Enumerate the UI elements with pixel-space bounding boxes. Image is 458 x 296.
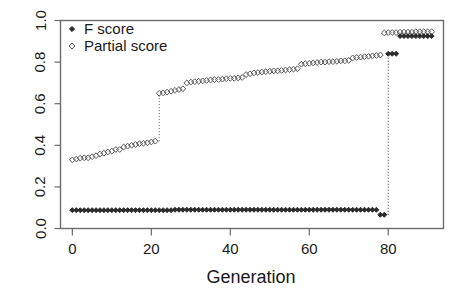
legend-marker — [69, 26, 74, 31]
data-point — [394, 51, 399, 56]
legend-item-partial-score[interactable]: Partial score — [69, 37, 167, 54]
y-tick-label: 0.6 — [32, 93, 49, 114]
x-axis-title: Generation — [206, 267, 295, 287]
x-tick-label: 20 — [143, 240, 160, 257]
y-tick-label: 0.4 — [32, 135, 49, 156]
scatter-plot: 0.00.20.40.60.81.0 020406080 F score Par… — [0, 0, 458, 296]
open-diamond-marker — [69, 43, 75, 49]
data-point — [382, 212, 387, 217]
legend-item-f-score[interactable]: F score — [69, 20, 134, 37]
filled-diamond-marker — [69, 26, 74, 31]
x-tick-label: 0 — [68, 240, 76, 257]
x-tick-label: 40 — [222, 240, 239, 257]
connector-lines — [159, 54, 388, 215]
x-tick-label: 60 — [301, 240, 318, 257]
y-axis-ticks — [55, 21, 61, 229]
y-tick-label: 1.0 — [32, 10, 49, 31]
chart-figure: 0.00.20.40.60.81.0 020406080 F score Par… — [0, 0, 458, 296]
y-tick-label: 0.8 — [32, 52, 49, 73]
x-axis-ticks — [72, 229, 388, 236]
x-tick-label: 80 — [380, 240, 397, 257]
x-axis-tick-labels: 020406080 — [68, 240, 396, 257]
y-tick-label: 0.0 — [32, 218, 49, 239]
legend-marker — [69, 43, 75, 49]
legend-item-label: F score — [84, 20, 134, 37]
series-f-score — [70, 34, 434, 218]
chart-legend: F score Partial score — [69, 20, 167, 54]
y-tick-label: 0.2 — [32, 176, 49, 197]
data-point — [374, 207, 379, 212]
y-axis-tick-labels: 0.00.20.40.60.81.0 — [32, 10, 49, 239]
data-point — [389, 30, 395, 36]
data-point — [429, 34, 434, 39]
legend-item-label: Partial score — [84, 37, 167, 54]
